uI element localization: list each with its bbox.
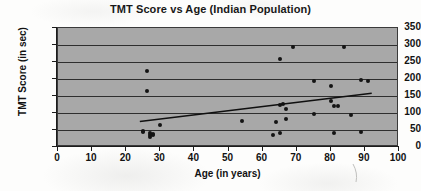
x-axis-tick-mark (364, 147, 365, 151)
x-axis-tick-label: 20 (110, 153, 140, 163)
x-axis-tick-label: 80 (315, 153, 345, 163)
x-axis-tick-label: 10 (76, 153, 106, 163)
x-axis-tick-label: 100 (383, 153, 413, 163)
x-axis-tick-label: 70 (281, 153, 311, 163)
x-axis-tick-mark (330, 147, 331, 151)
tmt-score-vs-age-chart: TMT Score vs Age (Indian Population) TMT… (0, 0, 421, 191)
x-axis-tick-mark (193, 147, 194, 151)
chart-title: TMT Score vs Age (Indian Population) (0, 3, 421, 15)
x-axis-tick-mark (125, 147, 126, 151)
x-axis-tick-mark (398, 147, 399, 151)
x-axis-tick-mark (296, 147, 297, 151)
x-axis-title: Age (in years) (57, 168, 398, 179)
x-axis-tick-label: 50 (213, 153, 243, 163)
x-axis-tick-label: 40 (178, 153, 208, 163)
x-axis-tick-mark (228, 147, 229, 151)
x-axis-tick-mark (262, 147, 263, 151)
trendline (58, 28, 399, 147)
x-axis-tick-mark (57, 147, 58, 151)
x-axis-tick-mark (91, 147, 92, 151)
x-axis-tick-label: 0 (42, 153, 72, 163)
x-axis-tick-label: 60 (247, 153, 277, 163)
x-axis-tick-mark (159, 147, 160, 151)
x-axis-tick-label: 90 (349, 153, 379, 163)
x-axis-tick-label: 30 (144, 153, 174, 163)
plot-area (57, 27, 398, 146)
trendline-segment (140, 93, 372, 121)
y-axis-title: TMT Score (in sec) (17, 7, 28, 137)
